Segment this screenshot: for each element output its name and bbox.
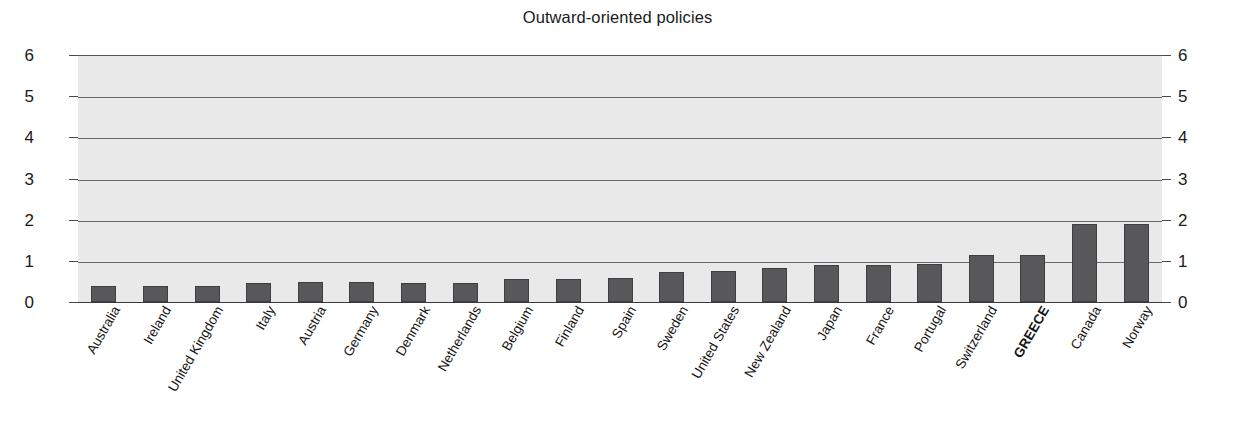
y-tick-mark-right-1 xyxy=(1162,261,1171,262)
bar-united-kingdom xyxy=(195,286,220,302)
y-tick-label-left-0: 0 xyxy=(25,294,34,311)
bar-france xyxy=(866,265,891,302)
x-axis-label-united-kingdom: United Kingdom xyxy=(166,304,226,394)
x-axis-label-italy: Italy xyxy=(253,304,277,332)
bar-greece xyxy=(1020,255,1045,302)
bar-denmark xyxy=(401,283,426,302)
y-tick-label-right-2: 2 xyxy=(1178,211,1187,228)
bar-italy xyxy=(246,283,271,302)
y-tick-mark-right-4 xyxy=(1162,137,1171,138)
y-tick-mark-left-1 xyxy=(69,261,78,262)
y-tick-label-left-1: 1 xyxy=(25,252,34,269)
chart-title: Outward-oriented policies xyxy=(0,8,1235,27)
y-tick-mark-right-6 xyxy=(1162,55,1171,56)
x-axis-label-switzerland: Switzerland xyxy=(953,304,1000,371)
bar-new-zealand xyxy=(762,268,787,302)
bar-austria xyxy=(298,282,323,302)
y-tick-mark-left-5 xyxy=(69,96,78,97)
y-tick-mark-left-3 xyxy=(69,179,78,180)
y-tick-mark-right-0 xyxy=(1162,302,1171,303)
x-axis-label-ireland: Ireland xyxy=(142,304,174,347)
bar-canada xyxy=(1072,224,1097,302)
x-axis-label-austria: Austria xyxy=(296,304,329,347)
bar-portugal xyxy=(917,264,942,302)
y-tick-mark-right-3 xyxy=(1162,179,1171,180)
y-tick-label-left-6: 6 xyxy=(25,47,34,64)
x-axis-label-japan: Japan xyxy=(815,304,845,343)
x-axis-baseline xyxy=(78,302,1162,303)
y-tick-label-right-4: 4 xyxy=(1178,129,1187,146)
bar-norway xyxy=(1124,224,1149,302)
bar-japan xyxy=(814,265,839,302)
chart-root: Outward-oriented policies 0123456 012345… xyxy=(0,0,1235,440)
y-tick-label-right-6: 6 xyxy=(1178,47,1187,64)
y-tick-label-left-2: 2 xyxy=(25,211,34,228)
bar-united-states xyxy=(711,271,736,302)
x-axis-label-norway: Norway xyxy=(1120,304,1155,350)
y-tick-label-left-4: 4 xyxy=(25,129,34,146)
x-axis-label-greece: GREECE xyxy=(1011,304,1051,360)
y-tick-label-left-5: 5 xyxy=(25,88,34,105)
x-axis-label-germany: Germany xyxy=(341,304,380,359)
y-tick-mark-right-5 xyxy=(1162,96,1171,97)
x-axis-label-denmark: Denmark xyxy=(393,304,432,358)
y-tick-label-right-1: 1 xyxy=(1178,252,1187,269)
bar-switzerland xyxy=(969,255,994,302)
y-tick-label-right-3: 3 xyxy=(1178,170,1187,187)
x-axis-label-canada: Canada xyxy=(1068,304,1103,352)
bar-germany xyxy=(349,282,374,302)
bar-sweden xyxy=(659,272,684,302)
x-axis-category-labels: AustraliaIrelandUnited KingdomItalyAustr… xyxy=(78,304,1162,440)
x-axis-label-sweden: Sweden xyxy=(654,304,690,353)
bar-belgium xyxy=(504,279,529,302)
y-tick-mark-left-6 xyxy=(69,55,78,56)
x-axis-label-finland: Finland xyxy=(553,304,587,349)
x-axis-label-spain: Spain xyxy=(610,304,639,341)
x-axis-label-portugal: Portugal xyxy=(912,304,949,354)
x-axis-label-netherlands: Netherlands xyxy=(436,304,484,374)
y-tick-mark-left-0 xyxy=(69,302,78,303)
y-tick-mark-left-4 xyxy=(69,137,78,138)
y-tick-mark-left-2 xyxy=(69,220,78,221)
bar-spain xyxy=(608,278,633,302)
y-tick-label-left-3: 3 xyxy=(25,170,34,187)
y-tick-label-right-0: 0 xyxy=(1178,294,1187,311)
y-tick-mark-right-2 xyxy=(1162,220,1171,221)
x-axis-label-belgium: Belgium xyxy=(499,304,535,353)
y-tick-label-right-5: 5 xyxy=(1178,88,1187,105)
x-axis-label-france: France xyxy=(864,304,897,347)
x-axis-label-australia: Australia xyxy=(85,304,123,356)
bar-netherlands xyxy=(453,283,478,302)
bar-australia xyxy=(91,286,116,302)
bar-ireland xyxy=(143,286,168,302)
bar-series xyxy=(78,55,1162,302)
bar-finland xyxy=(556,279,581,302)
x-axis-label-united-states: United States xyxy=(690,304,742,381)
x-axis-label-new-zealand: New Zealand xyxy=(742,304,793,380)
